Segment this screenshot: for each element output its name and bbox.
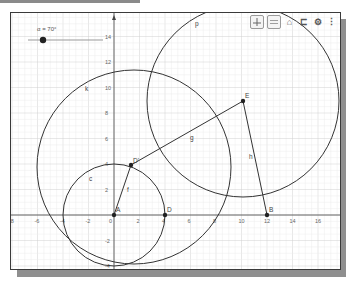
y-tick-label: 2 — [105, 187, 108, 193]
undo-icon[interactable]: ⊏ — [298, 16, 309, 28]
circle-p[interactable] — [147, 12, 339, 197]
x-tick-label: 0 — [109, 218, 112, 224]
x-tick-label: 12 — [264, 218, 270, 224]
grid — [10, 12, 341, 270]
x-tick-label: 6 — [188, 218, 191, 224]
x-tick-label: 2 — [137, 218, 140, 224]
point-E[interactable] — [241, 99, 245, 103]
y-tick-label: -2 — [105, 238, 110, 244]
coordinate-canvas[interactable]: -8-6-4-202468101214161412108642-2-4 A D … — [10, 12, 341, 270]
label-E: E — [245, 92, 250, 99]
label-p: p — [195, 20, 199, 28]
x-tick-label: 14 — [290, 218, 296, 224]
y-tick-label: 12 — [105, 59, 111, 65]
x-tick-label: -2 — [86, 218, 91, 224]
top-bar — [0, 0, 140, 3]
x-tick-label: -6 — [35, 218, 40, 224]
more-vertical-icon[interactable]: ⋮ — [326, 16, 337, 28]
x-tick-label: -8 — [10, 218, 14, 224]
label-A: A — [116, 206, 121, 213]
y-tick-label: 10 — [105, 85, 111, 91]
point-D[interactable] — [163, 213, 167, 217]
algebra-view-icon[interactable] — [267, 15, 281, 29]
label-D: D — [167, 206, 172, 213]
label-B: B — [269, 206, 273, 213]
label-h: h — [249, 153, 253, 160]
y-tick-label: 14 — [105, 34, 111, 40]
circle-k[interactable] — [37, 70, 231, 264]
graphics-grid-icon[interactable] — [250, 15, 264, 29]
y-tick-label: 6 — [105, 136, 108, 142]
label-D-prime: D' — [133, 157, 139, 164]
x-tick-label: -4 — [60, 218, 65, 224]
gear-icon[interactable]: ⚙ — [312, 16, 323, 28]
point-A[interactable] — [112, 213, 116, 217]
point-B[interactable] — [265, 213, 269, 217]
label-f: f — [127, 186, 129, 193]
segment-h[interactable] — [243, 101, 267, 215]
x-tick-label: 16 — [315, 218, 321, 224]
slider-label: α = 70° — [37, 26, 56, 32]
label-g: g — [190, 134, 194, 142]
slider-knob[interactable] — [40, 37, 46, 43]
graphics-view[interactable]: -8-6-4-202468101214161412108642-2-4 A D … — [10, 12, 341, 270]
label-c: c — [89, 175, 93, 182]
graphics-toolbar: ⌂ ⊏ ⚙ ⋮ — [250, 15, 337, 29]
home-icon[interactable]: ⌂ — [284, 16, 295, 28]
y-tick-label: 8 — [105, 110, 108, 116]
x-tick-label: 10 — [239, 218, 245, 224]
